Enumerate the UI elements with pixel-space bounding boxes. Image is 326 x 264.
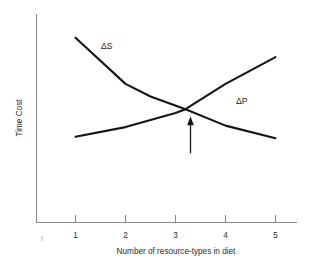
curve-delta-s [76, 38, 276, 139]
x-tick-label-3: 3 [173, 231, 178, 240]
optimum-arrow-head [187, 116, 194, 125]
scan-artifact-speck [41, 236, 43, 241]
x-axis-title: Number of resource-types in diet [117, 247, 236, 256]
x-tick-label-1: 1 [73, 231, 78, 240]
curve-label-delta-p: ΔP [236, 96, 248, 106]
x-tick-label-2: 2 [123, 231, 128, 240]
x-tick-label-4: 4 [223, 231, 228, 240]
chart-figure: 1 2 3 4 5 Number of resource-types in di… [0, 0, 326, 264]
x-tick-label-5: 5 [273, 231, 278, 240]
y-axis-title: Time Cost [15, 99, 24, 137]
chart-plot-area: 1 2 3 4 5 Number of resource-types in di… [0, 0, 326, 264]
curve-label-delta-s: ΔS [101, 41, 113, 51]
